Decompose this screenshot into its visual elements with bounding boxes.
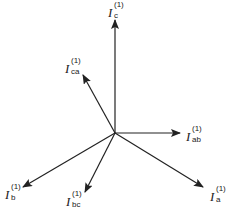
label-i-ca: I (1) ca <box>65 60 69 76</box>
phasor-arrow-ca <box>83 75 115 133</box>
label-i-ab: I (1) ab <box>186 128 190 144</box>
label-i-c: I (1) c <box>108 4 112 20</box>
label-i-bc: I (1) bc <box>66 193 70 209</box>
label-i-b: I (1) b <box>5 186 9 202</box>
phasor-diagram <box>0 0 227 213</box>
label-i-a: I (1) a <box>210 188 214 204</box>
